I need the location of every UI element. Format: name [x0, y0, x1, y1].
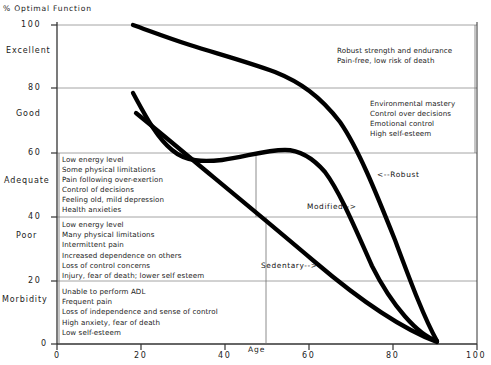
poor-line-5: Loss of control concerns — [62, 262, 204, 269]
x-tick-100: 100 — [466, 352, 486, 360]
good-line-3: Emotional control — [370, 120, 455, 127]
morbidity-line-2: Frequent pain — [62, 298, 218, 305]
morbidity-line-3: Loss of independence and sense of contro… — [62, 308, 218, 315]
x-tick-0: 0 — [54, 352, 61, 360]
poor-line-2: Many physical limitations — [62, 231, 204, 238]
good-line-2: Control over decisions — [370, 110, 455, 117]
good-line-4: High self-esteem — [370, 130, 455, 137]
morbidity-line-5: Low self-esteem — [62, 329, 218, 336]
adequate-line-4: Control of decisions — [62, 186, 164, 193]
y-tick-80: 80 — [28, 84, 41, 92]
poor-line-1: Low energy level — [62, 221, 204, 228]
x-tick-60: 60 — [302, 352, 315, 360]
chart-canvas: % Optimal Function 100 80 60 40 20 0 Exc… — [0, 0, 491, 365]
adequate-line-1: Low energy level — [62, 156, 164, 163]
x-tick-40: 40 — [218, 352, 231, 360]
y-tick-60: 60 — [28, 149, 41, 157]
adequate-line-3: Pain following over-exertion — [62, 176, 164, 183]
x-tick-20: 20 — [134, 352, 147, 360]
adequate-line-2: Some physical limitations — [62, 166, 164, 173]
x-tick-80: 80 — [386, 352, 399, 360]
y-tick-20: 20 — [28, 277, 41, 285]
band-label-good: Good — [16, 110, 41, 118]
y-tick-40: 40 — [28, 213, 41, 221]
curve-label-modified: Modified--> — [307, 203, 357, 210]
morbidity-line-4: High anxiety, fear of death — [62, 319, 218, 326]
adequate-annotation-box: Low energy level Some physical limitatio… — [62, 156, 164, 199]
curve-label-robust: <--Robust — [377, 171, 419, 178]
y-axis-title: % Optimal Function — [3, 5, 92, 13]
adequate-line-6: Health anxieties — [62, 206, 164, 213]
curve-label-sedentary: Sedentary--> — [261, 262, 318, 269]
excellent-annotation-box: Robust strength and endurance Pain-free,… — [337, 47, 452, 61]
band-label-excellent: Excellent — [6, 47, 51, 55]
y-tick-0: 0 — [41, 340, 48, 348]
poor-line-6: Injury, fear of death; lower self esteem — [62, 272, 204, 279]
good-annotation-box: Environmental mastery Control over decis… — [370, 100, 455, 128]
poor-line-4: Increased dependence on others — [62, 252, 204, 259]
band-label-morbidity: Morbidity — [2, 296, 48, 304]
y-ticks — [51, 25, 57, 344]
morbidity-line-1: Unable to perform ADL — [62, 288, 218, 295]
x-axis-title: Age — [248, 346, 265, 354]
band-label-poor: Poor — [16, 232, 37, 240]
poor-annotation-box: Low energy level Many physical limitatio… — [62, 221, 204, 264]
poor-line-3: Intermittent pain — [62, 241, 204, 248]
adequate-line-5: Feeling old, mild depression — [62, 196, 164, 203]
morbidity-annotation-box: Unable to perform ADL Frequent pain Loss… — [62, 288, 218, 323]
band-label-adequate: Adequate — [4, 177, 50, 185]
x-ticks — [57, 344, 477, 350]
y-tick-100: 100 — [21, 21, 41, 29]
excellent-line-1: Robust strength and endurance — [337, 47, 452, 54]
good-line-1: Environmental mastery — [370, 100, 455, 107]
excellent-line-2: Pain-free, low risk of death — [337, 57, 452, 64]
